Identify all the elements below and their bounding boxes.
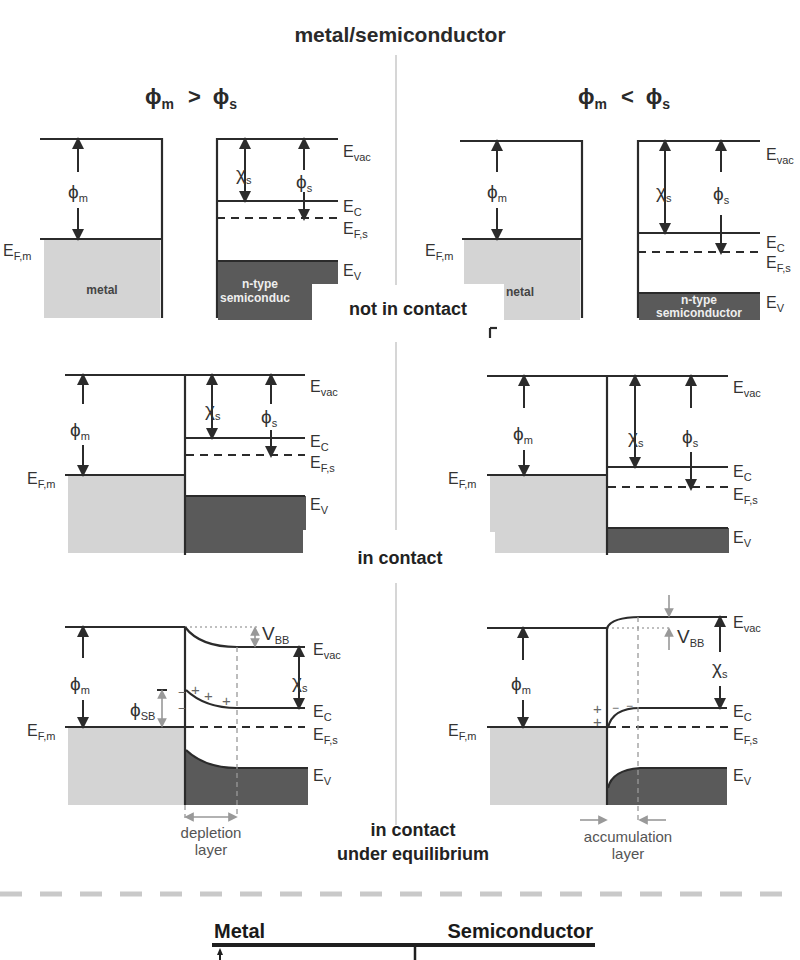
svg-text:χs: χs — [628, 426, 644, 449]
metal-region — [68, 475, 185, 553]
section-label-not-in-contact: not in contact — [349, 299, 467, 319]
svg-text:ϕs: ϕs — [713, 183, 730, 206]
svg-text:EC: EC — [733, 463, 752, 483]
svg-text:EV: EV — [310, 496, 329, 516]
bottom-metal-semiconductor-diagram: Metal Semiconductor — [212, 920, 595, 960]
condition-phim-greater-phis: ϕm>ϕs — [145, 84, 237, 112]
svg-text:ϕm: ϕm — [68, 181, 88, 204]
svg-text:VBB: VBB — [262, 623, 289, 646]
svg-text:+: + — [191, 681, 200, 698]
svg-text:EV: EV — [343, 262, 362, 282]
svg-text:EV: EV — [313, 767, 332, 787]
svg-text:ϕs: ϕs — [296, 171, 313, 194]
metal-region — [464, 239, 580, 284]
svg-text:EC: EC — [313, 703, 332, 723]
metal-region — [490, 727, 606, 805]
svg-text:EC: EC — [766, 234, 785, 254]
metal-region — [490, 475, 606, 553]
svg-text:ϕSB: ϕSB — [130, 699, 155, 722]
svg-text:EF,m: EF,m — [448, 722, 476, 742]
figure-title: metal/semiconductor — [294, 23, 505, 46]
accumulation-layer-label: accumulation — [584, 828, 672, 845]
panel-in-contact-right: ϕm χs ϕs EF,m Evac EC EF,s EV — [448, 376, 761, 555]
metal-region — [44, 239, 160, 318]
svg-text:n-type: n-type — [242, 277, 278, 291]
svg-text:ϕs: ϕs — [261, 406, 278, 429]
svg-text:Evac: Evac — [310, 378, 338, 398]
svg-text:EC: EC — [310, 433, 329, 453]
svg-text:n-type: n-type — [681, 293, 717, 307]
svg-text:+: + — [204, 687, 213, 704]
svg-text:χs: χs — [656, 181, 672, 204]
band-diagram-figure: metal/semiconductor ϕm>ϕs ϕm<ϕs ϕm EF,m … — [0, 0, 800, 960]
svg-text:EF,s: EF,s — [343, 220, 368, 240]
svg-text:EF,m: EF,m — [27, 470, 55, 490]
svg-text:ϕs: ϕs — [682, 426, 699, 449]
svg-text:EV: EV — [733, 767, 752, 787]
section-label-equilibrium-1: in contact — [370, 820, 455, 840]
svg-text:EF,s: EF,s — [733, 726, 758, 746]
depletion-layer-label: depletion — [181, 824, 242, 841]
svg-text:Evac: Evac — [733, 379, 761, 399]
svg-text:EF,m: EF,m — [448, 470, 476, 490]
svg-text:semiconduc: semiconduc — [220, 291, 290, 305]
svg-text:−: − — [626, 699, 633, 713]
semiconductor-region — [186, 496, 306, 553]
svg-text:+: + — [593, 713, 602, 730]
section-label-equilibrium-2: under equilibrium — [337, 844, 489, 864]
svg-text:EC: EC — [343, 198, 362, 218]
panel-equilibrium-right: ϕm + + − − VBB χs accumulation layer EF,… — [448, 595, 761, 862]
panel-in-contact-left: ϕm χs ϕs EF,m Evac EC EF,s EV — [27, 375, 338, 555]
panel-equilibrium-left: ϕm ϕSB − − + + + VBB χs depletion layer … — [27, 623, 341, 858]
bottom-semiconductor-label: Semiconductor — [447, 920, 593, 942]
svg-text:Evac: Evac — [733, 614, 761, 634]
svg-text:+: + — [222, 692, 231, 709]
semiconductor-region — [608, 528, 729, 553]
svg-text:−: − — [178, 701, 186, 716]
svg-text:EF,m: EF,m — [3, 242, 31, 262]
svg-text:EF,s: EF,s — [310, 454, 335, 474]
svg-text:layer: layer — [612, 845, 645, 862]
svg-text:ϕm: ϕm — [513, 423, 533, 446]
svg-text:Evac: Evac — [313, 641, 341, 661]
svg-text:ϕm: ϕm — [511, 673, 531, 696]
svg-text:EF,s: EF,s — [766, 254, 791, 274]
svg-text:χs: χs — [205, 399, 221, 422]
metal-region — [68, 727, 185, 805]
section-label-in-contact: in contact — [357, 548, 442, 568]
metal-label: metal — [86, 283, 117, 297]
svg-text:EV: EV — [733, 529, 752, 549]
svg-text:EF,s: EF,s — [313, 726, 338, 746]
svg-text:EV: EV — [766, 294, 785, 314]
svg-text:netal: netal — [506, 285, 534, 299]
svg-text:EF,s: EF,s — [733, 486, 758, 506]
svg-text:ϕm<ϕs: ϕm<ϕs — [578, 84, 670, 112]
bottom-metal-label: Metal — [214, 920, 265, 942]
svg-text:ϕm: ϕm — [70, 419, 90, 442]
svg-text:ϕm: ϕm — [487, 181, 507, 204]
svg-text:Evac: Evac — [766, 146, 794, 166]
svg-text:EF,m: EF,m — [27, 722, 55, 742]
svg-text:χs: χs — [236, 163, 252, 186]
svg-text:−: − — [612, 701, 619, 715]
semiconductor-region — [608, 768, 727, 805]
svg-text:χs: χs — [292, 671, 308, 694]
svg-text:EC: EC — [733, 703, 752, 723]
svg-text:−: − — [178, 685, 186, 700]
svg-text:EF,m: EF,m — [425, 242, 453, 262]
svg-text:layer: layer — [195, 841, 228, 858]
svg-text:Evac: Evac — [343, 143, 371, 163]
svg-text:χs: χs — [712, 657, 728, 680]
svg-text:ϕm>ϕs: ϕm>ϕs — [145, 84, 237, 112]
svg-text:VBB: VBB — [677, 626, 704, 649]
svg-text:semiconductor: semiconductor — [656, 306, 742, 320]
semiconductor-region — [186, 750, 308, 805]
svg-text:ϕm: ϕm — [70, 673, 90, 696]
condition-phim-less-phis: ϕm<ϕs — [578, 84, 670, 112]
